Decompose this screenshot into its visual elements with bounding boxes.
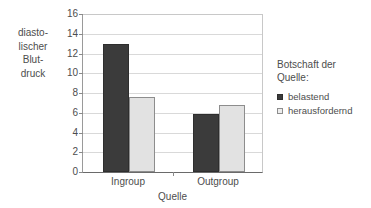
open-square-icon <box>277 108 283 114</box>
legend-item-herausfordernd: herausfordernd <box>277 105 371 116</box>
y-tick-label: 16 <box>50 9 78 19</box>
bar-ingroup-belastend <box>103 44 129 172</box>
x-tick-label-outgroup: Outgroup <box>197 176 239 188</box>
legend-item-label: belastend <box>288 91 329 102</box>
legend-title: Botschaft der Quelle: <box>277 58 371 84</box>
bar-group-container <box>83 14 262 172</box>
bar-chart-figure: diasto- lischer Blut- druck 16 14 12 10 … <box>0 0 371 208</box>
y-tick-label: 10 <box>50 68 78 78</box>
y-tick-label: 4 <box>50 128 78 138</box>
x-axis-tick-labels: Ingroup Outgroup <box>82 176 263 190</box>
legend-item-belastend: belastend <box>277 91 371 102</box>
plot-area <box>82 14 263 173</box>
y-tick-label: 14 <box>50 29 78 39</box>
y-tick-label: 0 <box>50 167 78 177</box>
bar-ingroup-herausfordernd <box>129 97 155 172</box>
y-tick-label: 8 <box>50 88 78 98</box>
y-axis-tick-labels: 16 14 12 10 8 6 4 2 0 <box>50 14 78 173</box>
x-axis-title: Quelle <box>82 191 263 203</box>
x-tick-label-ingroup: Ingroup <box>111 176 145 188</box>
legend-item-label: herausfordernd <box>288 105 352 116</box>
y-tick-label: 6 <box>50 108 78 118</box>
bar-outgroup-herausfordernd <box>219 105 245 172</box>
y-tick-label: 2 <box>50 147 78 157</box>
filled-square-icon <box>277 94 283 100</box>
bar-outgroup-belastend <box>193 114 219 172</box>
legend: Botschaft der Quelle: belastend herausfo… <box>277 58 371 119</box>
y-tick-label: 12 <box>50 49 78 59</box>
